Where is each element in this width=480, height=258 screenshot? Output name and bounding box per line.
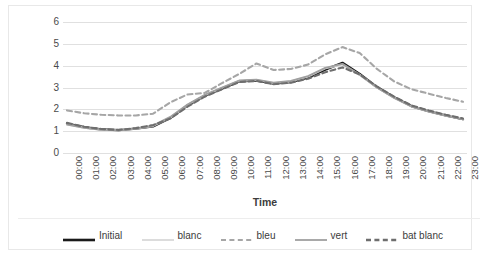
x-axis-tick-labels: 00:0001:0002:0003:0004:0005:0006:0007:00… bbox=[63, 156, 467, 192]
legend-item-bat-blanc[interactable]: bat blanc bbox=[366, 231, 443, 241]
y-tick-label: 5 bbox=[35, 39, 59, 49]
x-tick-label: 17:00 bbox=[366, 156, 377, 190]
x-tick-label: 16:00 bbox=[349, 156, 360, 190]
y-tick-label: 2 bbox=[35, 104, 59, 114]
series-line-Initial bbox=[67, 63, 463, 130]
legend-item-bleu[interactable]: bleu bbox=[221, 231, 276, 241]
legend-swatch bbox=[295, 231, 327, 241]
y-tick-label: 4 bbox=[35, 61, 59, 71]
x-tick-label: 19:00 bbox=[400, 156, 411, 190]
legend-label: vert bbox=[331, 231, 348, 241]
x-tick-label: 22:00 bbox=[452, 156, 463, 190]
x-tick-label: 00:00 bbox=[73, 156, 84, 190]
x-tick-label: 15:00 bbox=[331, 156, 342, 190]
series-line-blanc bbox=[67, 65, 463, 131]
y-tick-label: 0 bbox=[35, 148, 59, 158]
x-tick-label: 11:00 bbox=[262, 156, 273, 190]
legend-label: Initial bbox=[99, 231, 122, 241]
legend-label: blanc bbox=[178, 231, 202, 241]
legend-item-vert[interactable]: vert bbox=[295, 231, 348, 241]
y-tick-label: 1 bbox=[35, 126, 59, 136]
series-lines bbox=[63, 22, 467, 153]
x-tick-label: 23:00 bbox=[469, 156, 480, 190]
y-tick-label: 6 bbox=[35, 17, 59, 27]
legend-swatch bbox=[63, 231, 95, 241]
series-line-bat-blanc bbox=[67, 67, 463, 129]
legend-item-blanc[interactable]: blanc bbox=[142, 231, 202, 241]
gridline bbox=[63, 153, 467, 154]
x-tick-label: 18:00 bbox=[383, 156, 394, 190]
legend-divider bbox=[18, 218, 480, 219]
y-axis-tick-labels: 0123456 bbox=[31, 22, 59, 153]
plot-area bbox=[63, 22, 467, 153]
chart-frame: Latent load (kW) 0123456 00:0001:0002:00… bbox=[8, 5, 472, 250]
legend-label: bleu bbox=[257, 231, 276, 241]
x-tick-label: 02:00 bbox=[107, 156, 118, 190]
x-tick-label: 10:00 bbox=[245, 156, 256, 190]
x-tick-label: 05:00 bbox=[159, 156, 170, 190]
x-tick-label: 01:00 bbox=[90, 156, 101, 190]
x-tick-label: 21:00 bbox=[435, 156, 446, 190]
x-tick-label: 09:00 bbox=[228, 156, 239, 190]
x-tick-label: 04:00 bbox=[142, 156, 153, 190]
x-tick-label: 14:00 bbox=[314, 156, 325, 190]
x-tick-label: 07:00 bbox=[194, 156, 205, 190]
x-tick-label: 03:00 bbox=[125, 156, 136, 190]
x-tick-label: 06:00 bbox=[176, 156, 187, 190]
y-tick-label: 3 bbox=[35, 83, 59, 93]
legend-swatch bbox=[221, 231, 253, 241]
legend-swatch bbox=[366, 231, 398, 241]
series-line-vert bbox=[67, 64, 463, 130]
legend-item-Initial[interactable]: Initial bbox=[63, 231, 122, 241]
legend-label: bat blanc bbox=[402, 231, 443, 241]
x-tick-label: 12:00 bbox=[280, 156, 291, 190]
x-axis-title: Time bbox=[63, 196, 467, 208]
x-tick-label: 20:00 bbox=[417, 156, 428, 190]
legend-swatch bbox=[142, 231, 174, 241]
chart-legend: Initialblancbleuvertbat blanc bbox=[63, 228, 443, 244]
x-tick-label: 13:00 bbox=[297, 156, 308, 190]
x-tick-label: 08:00 bbox=[211, 156, 222, 190]
